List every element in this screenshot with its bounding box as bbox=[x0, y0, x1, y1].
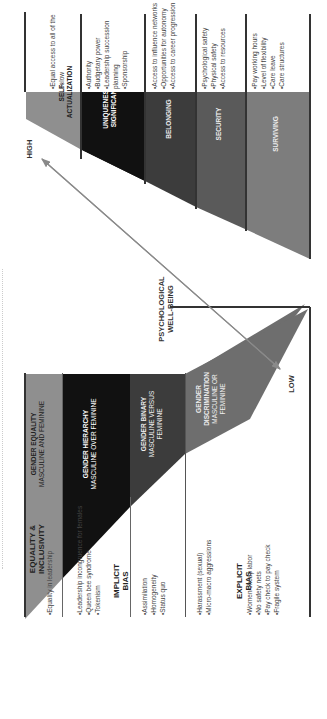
label-surviving: SURVIVING bbox=[272, 104, 280, 164]
level-divider bbox=[309, 14, 311, 259]
bullets-self-actualization: Equal access to all of the below bbox=[48, 0, 66, 89]
bullets-surviving: Pay working hours Level of flexibility C… bbox=[250, 0, 286, 89]
label-belonging: BELONGING bbox=[165, 89, 173, 149]
level-divider bbox=[144, 14, 146, 184]
diagram-stage: EQUALITY & INCLUSIVITY IMPLICIT BIAS EXP… bbox=[0, 0, 327, 719]
bullets-security: Psychological safety Physical safety Acc… bbox=[200, 0, 227, 89]
label-security: SECURITY bbox=[215, 94, 223, 154]
level-divider bbox=[24, 12, 26, 92]
bullets-uniqueness: Authority Budgetary power Leadership suc… bbox=[84, 0, 129, 89]
level-divider bbox=[245, 14, 247, 231]
level-divider bbox=[80, 14, 82, 159]
level-divider bbox=[195, 14, 197, 209]
bullets-belonging: Access to influence networks Opportuniti… bbox=[150, 0, 177, 89]
